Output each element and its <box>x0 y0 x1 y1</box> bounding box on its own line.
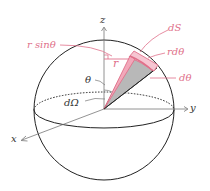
r-dtheta-label: rdθ <box>167 47 184 57</box>
equator-front <box>34 110 174 128</box>
leader-rdtheta <box>148 53 165 58</box>
dS-label: dS <box>168 23 181 33</box>
leader-domega <box>85 98 105 101</box>
z-axis-label: z <box>100 15 105 25</box>
right-angle-icon <box>104 55 108 59</box>
solid-angle-diagram: z y x dS rdθ dθ r sinθ r θ dΩ <box>0 0 210 191</box>
r-sin-theta-label: r sinθ <box>27 40 56 50</box>
y-axis-label: y <box>190 103 196 113</box>
r-label: r <box>113 59 118 69</box>
dtheta-label: dθ <box>179 73 191 83</box>
leader-theta <box>95 80 105 85</box>
leader-dS <box>140 30 168 52</box>
d-omega-label: dΩ <box>64 98 79 108</box>
theta-label: θ <box>85 75 91 85</box>
x-axis-label: x <box>11 134 17 144</box>
